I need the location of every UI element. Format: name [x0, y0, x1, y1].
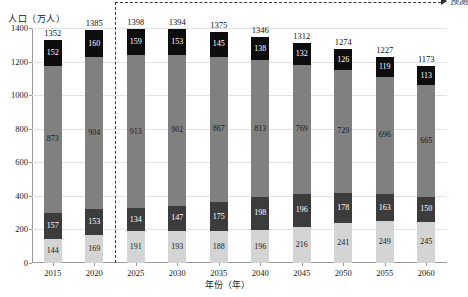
bar-segment[interactable]: 153 — [85, 209, 103, 235]
bar-group[interactable]: 16915390416013852020 — [85, 30, 103, 263]
bar-total-label: 1398 — [127, 17, 144, 27]
bar-segment[interactable]: 160 — [85, 30, 103, 57]
bar-segment-value: 198 — [254, 209, 266, 217]
y-axis-tick-mark — [29, 162, 32, 163]
bar-segment[interactable]: 153 — [168, 29, 186, 55]
bar-segment[interactable]: 249 — [376, 221, 394, 263]
forecast-label: 预测 — [450, 0, 468, 7]
bar-segment[interactable]: 729 — [334, 70, 352, 192]
bar-segment-value: 145 — [213, 40, 225, 48]
bar-segment[interactable]: 159 — [127, 29, 145, 56]
bar-group[interactable]: 19619881313813462040 — [251, 37, 269, 263]
bar-segment-value: 163 — [379, 204, 391, 212]
bar-segment[interactable]: 163 — [376, 194, 394, 221]
bar-segment-value: 144 — [47, 247, 59, 255]
bar-total-label: 1274 — [335, 37, 352, 47]
bar-segment[interactable]: 113 — [417, 66, 435, 85]
bar-segment-value: 126 — [337, 56, 349, 64]
x-axis-tick-mark — [177, 263, 178, 266]
bar-group[interactable]: 19113491315913982025 — [127, 29, 145, 263]
bar-segment[interactable]: 216 — [293, 227, 311, 263]
bar-segment[interactable]: 245 — [417, 222, 435, 263]
bar-segment[interactable]: 157 — [44, 213, 62, 239]
bar-segment[interactable]: 913 — [127, 55, 145, 208]
bar-segment[interactable]: 134 — [127, 208, 145, 230]
bar-segment[interactable]: 873 — [44, 66, 62, 213]
bar-segment-value: 119 — [379, 63, 391, 71]
y-axis-tick-mark — [29, 229, 32, 230]
bar-total-label: 1346 — [252, 25, 269, 35]
bar-segment[interactable]: 119 — [376, 57, 394, 77]
bar-segment-value: 150 — [420, 205, 432, 213]
bar-segment[interactable]: 150 — [417, 197, 435, 222]
bar-segment[interactable]: 696 — [376, 77, 394, 194]
bar-segment[interactable]: 178 — [334, 193, 352, 223]
bar-segment[interactable]: 145 — [210, 32, 228, 56]
y-axis-tick-mark — [29, 62, 32, 63]
bar-group[interactable]: 18817586714513752035 — [210, 32, 228, 263]
bar-segment-value: 157 — [47, 222, 59, 230]
bar-segment-value: 769 — [296, 125, 308, 133]
bar-segment-value: 193 — [171, 243, 183, 251]
x-axis-tick-mark — [94, 263, 95, 266]
bar-segment-value: 191 — [130, 243, 142, 251]
bar-segment-value: 245 — [420, 238, 432, 246]
bar-segment[interactable]: 665 — [417, 85, 435, 197]
bar-segment[interactable]: 147 — [168, 206, 186, 231]
bar-segment[interactable]: 193 — [168, 231, 186, 263]
bar-segment-value: 241 — [337, 239, 349, 247]
bar-segment[interactable]: 144 — [44, 239, 62, 263]
bar-group[interactable]: 21619676913213122045 — [293, 43, 311, 263]
bar-segment-value: 159 — [130, 38, 142, 46]
bar-total-label: 1312 — [293, 31, 310, 41]
bar-total-label: 1394 — [169, 17, 186, 27]
bar-group[interactable]: 14415787315213522015 — [44, 40, 62, 263]
bar-group[interactable]: 19314790215313942030 — [168, 29, 186, 263]
bar-segment-value: 134 — [130, 216, 142, 224]
bar-segment[interactable]: 241 — [334, 223, 352, 263]
plot-area: 0200400600800100012001400144157873152135… — [32, 28, 447, 263]
x-axis-tick-label: 2040 — [252, 268, 269, 278]
bar-segment-value: 813 — [254, 125, 266, 133]
bar-segment-value: 153 — [88, 218, 100, 226]
y-axis-tick-label: 1400 — [11, 23, 28, 33]
y-axis-tick-label: 600 — [15, 157, 28, 167]
bar-group[interactable]: 24515066511311732060 — [417, 66, 435, 263]
bar-segment-value: 196 — [296, 206, 308, 214]
forecast-divider-line — [115, 2, 116, 263]
bar-segment[interactable]: 175 — [210, 202, 228, 231]
x-axis-tick-label: 2045 — [293, 268, 310, 278]
bar-segment[interactable]: 152 — [44, 40, 62, 66]
x-axis-title: 年份（年） — [0, 278, 455, 291]
bar-segment-value: 113 — [420, 72, 432, 80]
x-axis-tick-mark — [426, 263, 427, 266]
bar-segment[interactable]: 769 — [293, 65, 311, 194]
bar-segment-value: 902 — [171, 126, 183, 134]
bar-total-label: 1375 — [210, 20, 227, 30]
bar-group[interactable]: 24916369611912272055 — [376, 57, 394, 263]
x-axis-tick-mark — [385, 263, 386, 266]
bar-segment[interactable]: 904 — [85, 57, 103, 209]
bar-segment-value: 138 — [254, 45, 266, 53]
bar-segment[interactable]: 196 — [293, 194, 311, 227]
y-axis-tick-label: 1000 — [11, 90, 28, 100]
bar-segment[interactable]: 132 — [293, 43, 311, 65]
bar-segment[interactable]: 126 — [334, 49, 352, 70]
bar-segment[interactable]: 902 — [168, 55, 186, 206]
bar-segment[interactable]: 191 — [127, 231, 145, 263]
bar-segment-value: 132 — [296, 50, 308, 58]
bar-segment[interactable]: 188 — [210, 231, 228, 263]
bar-segment[interactable]: 813 — [251, 60, 269, 196]
bar-segment-value: 175 — [213, 213, 225, 221]
bar-segment[interactable]: 169 — [85, 235, 103, 263]
y-axis-tick-mark — [29, 196, 32, 197]
bar-segment[interactable]: 867 — [210, 57, 228, 203]
y-axis-tick-mark — [29, 129, 32, 130]
bar-segment[interactable]: 138 — [251, 37, 269, 60]
x-axis-tick-label: 2025 — [127, 268, 144, 278]
bar-group[interactable]: 24117872912612742050 — [334, 49, 352, 263]
x-axis-tick-label: 2030 — [169, 268, 186, 278]
bar-segment[interactable]: 196 — [251, 230, 269, 263]
bar-segment[interactable]: 198 — [251, 197, 269, 230]
y-axis-tick-mark — [29, 28, 32, 29]
